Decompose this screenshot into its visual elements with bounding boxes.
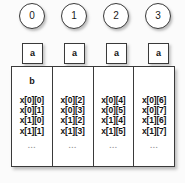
address-label-0: a bbox=[30, 49, 35, 58]
address-box-0: a bbox=[22, 43, 43, 64]
memory-cell: x[0][3] bbox=[61, 105, 85, 115]
bank-index-circle-1: 1 bbox=[61, 3, 87, 29]
memory-bank-column-2: x[0][4] x[0][5] x[1][4] x[1][5] ... bbox=[94, 67, 135, 166]
memory-bank-column-1: x[0][2] x[0][3] x[1][2] x[1][3] ... bbox=[53, 67, 94, 166]
memory-cell: x[0][5] bbox=[101, 105, 125, 115]
bank-index-label-1: 1 bbox=[71, 11, 77, 21]
bank-index-label-2: 2 bbox=[113, 11, 119, 21]
address-label-2: a bbox=[114, 49, 119, 58]
memory-cell: x[0][2] bbox=[61, 95, 85, 105]
cell-list-2: x[0][4] x[0][5] x[1][4] x[1][5] ... bbox=[101, 95, 125, 150]
memory-cell: x[1][4] bbox=[101, 115, 125, 125]
address-box-1: a bbox=[64, 43, 85, 64]
bank-index-circle-2: 2 bbox=[103, 3, 129, 29]
memory-cell: x[1][3] bbox=[61, 126, 85, 136]
address-label-3: a bbox=[156, 49, 161, 58]
bank-index-label-3: 3 bbox=[155, 11, 161, 21]
cell-list-0: x[0][0] x[0][1] x[1][0] x[1][1] ... bbox=[20, 95, 44, 150]
diagram-canvas: 0 1 2 3 a a a a b x[0][0] x[0][1] x[1][0… bbox=[0, 0, 185, 183]
memory-bank-column-3: x[0][6] x[0][7] x[1][6] x[1][7] ... bbox=[134, 67, 174, 166]
memory-cell: x[1][0] bbox=[20, 115, 44, 125]
cell-list-1: x[0][2] x[0][3] x[1][2] x[1][3] ... bbox=[61, 95, 85, 150]
memory-cell: x[1][6] bbox=[142, 115, 166, 125]
memory-bank-container: b x[0][0] x[0][1] x[1][0] x[1][1] ... x[… bbox=[11, 66, 175, 167]
ellipsis-icon: ... bbox=[109, 142, 117, 150]
memory-cell: x[0][1] bbox=[20, 105, 44, 115]
bank-index-circle-0: 0 bbox=[19, 3, 45, 29]
memory-cell: x[1][1] bbox=[20, 126, 44, 136]
ellipsis-icon: ... bbox=[28, 142, 36, 150]
memory-bank-column-0: b x[0][0] x[0][1] x[1][0] x[1][1] ... bbox=[12, 67, 53, 166]
memory-cell: x[0][7] bbox=[142, 105, 166, 115]
memory-cell: x[0][0] bbox=[20, 95, 44, 105]
bank-index-label-0: 0 bbox=[29, 11, 35, 21]
ellipsis-icon: ... bbox=[69, 142, 77, 150]
address-box-3: a bbox=[148, 43, 169, 64]
base-label-0: b bbox=[29, 67, 35, 95]
cell-list-3: x[0][6] x[0][7] x[1][6] x[1][7] ... bbox=[142, 95, 166, 150]
memory-cell: x[0][4] bbox=[101, 95, 125, 105]
memory-cell: x[1][5] bbox=[101, 126, 125, 136]
ellipsis-icon: ... bbox=[150, 142, 158, 150]
memory-cell: x[0][6] bbox=[142, 95, 166, 105]
address-box-2: a bbox=[106, 43, 127, 64]
memory-cell: x[1][7] bbox=[142, 126, 166, 136]
address-label-1: a bbox=[72, 49, 77, 58]
bank-index-circle-3: 3 bbox=[145, 3, 171, 29]
memory-cell: x[1][2] bbox=[61, 115, 85, 125]
